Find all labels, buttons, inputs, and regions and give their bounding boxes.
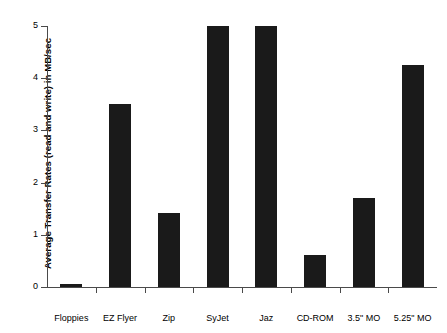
x-tick-mark [242, 287, 243, 293]
x-tick-label: 5.25" MO [388, 313, 437, 323]
x-tick-mark [193, 287, 194, 293]
bar [158, 213, 180, 287]
x-tick-label: Jaz [242, 313, 291, 323]
y-tick-mark [41, 26, 48, 27]
bar [353, 198, 375, 287]
y-tick-mark [41, 130, 48, 131]
x-tick-label: Zip [145, 313, 194, 323]
bar [207, 26, 229, 287]
x-tick-label: 3.5" MO [340, 313, 389, 323]
x-tick-mark [145, 287, 146, 293]
plot-area: 012345 FloppiesEZ FlyerZipSyJetJazCD-ROM… [47, 26, 437, 288]
y-tick-mark [41, 183, 48, 184]
y-axis-line [47, 26, 48, 288]
x-tick-mark [96, 287, 97, 293]
bar [304, 255, 326, 287]
y-tick-mark [41, 287, 48, 288]
x-tick-mark [340, 287, 341, 293]
y-tick-label: 4 [20, 73, 38, 82]
y-tick-label: 2 [20, 178, 38, 187]
y-tick-label: 1 [20, 230, 38, 239]
y-tick-label: 5 [20, 21, 38, 30]
x-tick-label: CD-ROM [291, 313, 340, 323]
x-tick-label: SyJet [193, 313, 242, 323]
bar-chart: Average Transfer Rates (read and write) … [0, 0, 447, 333]
y-tick-label: 3 [20, 125, 38, 134]
y-tick-mark [41, 235, 48, 236]
bar [255, 26, 277, 287]
x-tick-mark [388, 287, 389, 293]
x-tick-label: EZ Flyer [96, 313, 145, 323]
bar [60, 284, 82, 287]
bar [402, 65, 424, 287]
y-tick-mark [41, 78, 48, 79]
x-tick-label: Floppies [47, 313, 96, 323]
y-tick-label: 0 [20, 282, 38, 291]
bar [109, 104, 131, 287]
x-tick-mark [291, 287, 292, 293]
